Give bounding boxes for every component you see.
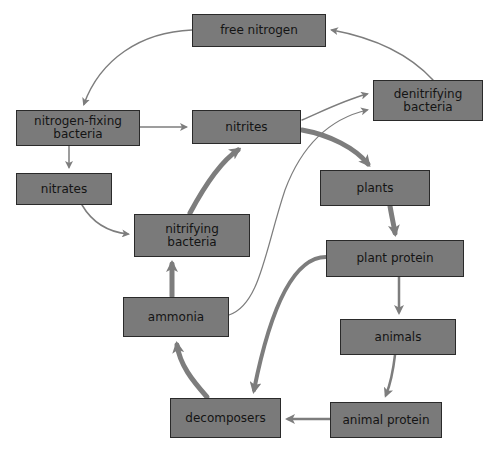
edge-denitrifying-bacteria-to-free-nitrogen	[332, 30, 433, 80]
node-ammonia: ammonia	[123, 297, 229, 337]
nitrogen-cycle-diagram: free nitrogen denitrifying bacteria nitr…	[0, 0, 494, 452]
edge-nitrites-to-plants	[302, 130, 368, 164]
node-animal-protein: animal protein	[330, 402, 442, 438]
node-nitrites: nitrites	[192, 110, 301, 144]
node-free-nitrogen: free nitrogen	[192, 14, 326, 47]
node-decomposers: decomposers	[170, 398, 281, 438]
node-plants: plants	[320, 170, 430, 206]
node-nitrifying-bacteria: nitrifying bacteria	[134, 214, 250, 257]
node-plant-protein: plant protein	[326, 240, 464, 277]
edge-plant-protein-to-decomposers	[254, 257, 326, 390]
node-nitrates: nitrates	[16, 173, 112, 205]
node-animals: animals	[340, 319, 456, 355]
node-denitrifying-bacteria: denitrifying bacteria	[373, 80, 483, 121]
edge-nitrifying-bacteria-to-nitrites	[190, 150, 238, 213]
node-nitrogen-fixing-bacteria: nitrogen-fixing bacteria	[16, 110, 140, 146]
edge-nitrates-to-nitrifying-bacteria	[82, 205, 128, 234]
edge-plants-to-plant-protein	[390, 206, 395, 233]
edge-free-nitrogen-to-nitrogen-fixing-bacteria	[84, 30, 192, 104]
edge-nitrites-to-denitrifying-bacteria	[302, 94, 367, 120]
edge-decomposers-to-ammonia	[177, 345, 207, 397]
edge-animals-to-animal-protein	[386, 355, 395, 395]
